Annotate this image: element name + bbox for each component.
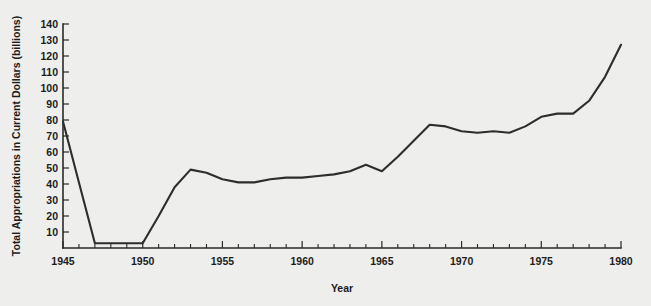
- y-tick-label: 120: [40, 50, 58, 62]
- x-tick-label: 1960: [290, 255, 314, 267]
- y-tick-label: 40: [46, 178, 58, 190]
- y-tick-label: 130: [40, 34, 58, 46]
- y-tick-label: 10: [46, 226, 58, 238]
- x-axis-title: Year: [331, 282, 353, 294]
- y-tick-label: 50: [46, 162, 58, 174]
- y-tick-label: 80: [46, 114, 58, 126]
- y-tick-label: 110: [41, 66, 58, 78]
- y-tick-label: 140: [40, 18, 58, 30]
- y-tick-label: 20: [46, 210, 58, 222]
- y-tick-label: 30: [46, 194, 58, 206]
- figure-background: [0, 0, 651, 306]
- y-axis-title: Total Appropriations in Current Dollars …: [10, 16, 22, 256]
- chart-canvas: 102030405060708090100110120130140 194519…: [0, 0, 651, 306]
- x-tick-label: 1945: [51, 255, 75, 267]
- x-tick-label: 1975: [530, 255, 554, 267]
- y-tick-label: 90: [46, 98, 58, 110]
- x-tick-label: 1965: [370, 255, 394, 267]
- y-tick-label: 60: [46, 146, 58, 158]
- x-tick-label: 1980: [609, 255, 633, 267]
- x-tick-label: 1955: [211, 255, 235, 267]
- chart-figure: 102030405060708090100110120130140 194519…: [0, 0, 651, 306]
- x-tick-label: 1950: [131, 255, 155, 267]
- y-tick-label: 100: [40, 82, 58, 94]
- y-tick-label: 70: [46, 130, 58, 142]
- x-tick-label: 1970: [450, 255, 474, 267]
